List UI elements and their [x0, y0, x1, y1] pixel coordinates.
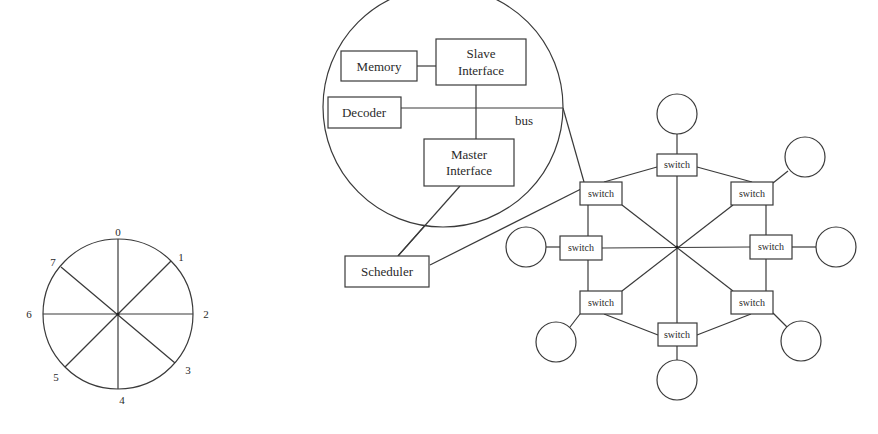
link-lr-node: [773, 313, 787, 327]
node-right: [816, 227, 856, 267]
edge-ll-bottom: [604, 314, 658, 335]
memory-label: Memory: [357, 59, 402, 74]
switch-left-label: switch: [568, 242, 594, 253]
ring-label-4: 4: [119, 394, 125, 406]
magnified-node-view: Memory Slave Interface Decoder bus Maste…: [323, 0, 563, 256]
switch-upper-right-label: switch: [739, 188, 765, 199]
link-ur-node: [773, 171, 788, 183]
node-bottom: [657, 360, 697, 400]
ring-center-dot: [116, 312, 119, 315]
scheduler-label: Scheduler: [361, 264, 414, 279]
node-upper-right: [785, 137, 825, 177]
ring-label-3: 3: [185, 364, 191, 376]
switch-lower-left-label: switch: [588, 297, 614, 308]
ring-label-2: 2: [203, 308, 209, 320]
switch-bottom-label: switch: [664, 329, 690, 340]
network-center-dot: [675, 245, 678, 248]
node-lower-left: [536, 322, 576, 362]
node-lower-right: [781, 321, 821, 361]
master-interface-label-1: Master: [451, 147, 488, 162]
master-interface-label-2: Interface: [446, 163, 492, 178]
ring-topology: 0 1 2 3 4 5 6 7: [26, 226, 209, 406]
edge-top-ul: [604, 167, 657, 182]
node-left: [506, 227, 546, 267]
slave-interface-label-1: Slave: [467, 46, 496, 61]
edge-lr-bottom: [697, 314, 751, 335]
ring-label-0: 0: [115, 226, 121, 238]
ring-label-6: 6: [26, 308, 32, 320]
switch-top-label: switch: [664, 159, 690, 170]
decoder-label: Decoder: [342, 105, 387, 120]
switch-right-label: switch: [758, 241, 784, 252]
ring-label-5: 5: [53, 371, 59, 383]
ring-label-7: 7: [50, 256, 56, 268]
switch-lower-right-label: switch: [739, 297, 765, 308]
zoom-line-bus-to-switch: [563, 108, 584, 182]
slave-interface-label-2: Interface: [458, 63, 504, 78]
link-ll-node: [570, 314, 580, 327]
bus-label: bus: [515, 113, 533, 128]
switch-upper-left-label: switch: [588, 188, 614, 199]
ring-label-1: 1: [178, 251, 184, 263]
diagram-canvas: 0 1 2 3 4 5 6 7 Memory Slave Interface D…: [0, 0, 878, 434]
node-top: [657, 94, 697, 134]
edge-top-ur: [697, 167, 752, 182]
